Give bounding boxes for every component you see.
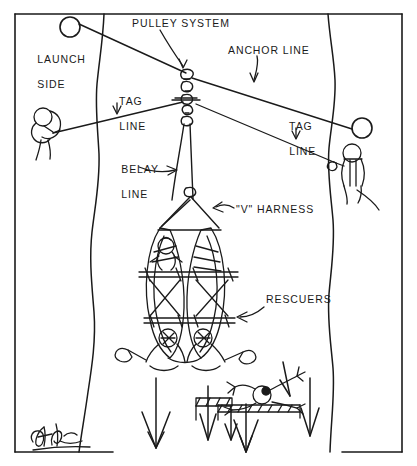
label-pulley-system: PULLEY SYSTEM bbox=[132, 17, 230, 29]
right-bank bbox=[328, 14, 335, 452]
label-belay-line-line2: LINE bbox=[121, 188, 148, 200]
right-anchor-circle bbox=[352, 118, 372, 138]
label-launch-side-line2: SIDE bbox=[37, 78, 65, 90]
left-anchor-circle bbox=[60, 17, 80, 37]
rescuer-left-lower-figure bbox=[115, 329, 185, 371]
label-belay-line-line1: BELAY bbox=[121, 163, 159, 175]
belay-carabiner bbox=[184, 187, 195, 196]
label-tag-line-left: TAG LINE bbox=[104, 82, 146, 145]
double-kayak-litter bbox=[139, 228, 238, 363]
label-launch-side-line1: LAUNCH bbox=[37, 53, 86, 65]
left-rope-tender-figure bbox=[32, 108, 61, 160]
label-belay-line: BELAY LINE bbox=[106, 150, 159, 213]
rescuer-left-figure bbox=[150, 238, 182, 271]
label-tag-line-right-line2: LINE bbox=[289, 145, 316, 157]
label-launch-side: LAUNCH SIDE bbox=[22, 40, 86, 103]
belay-line-rope bbox=[172, 124, 193, 200]
pulley-system-hardware bbox=[172, 69, 200, 126]
label-rescuers: RESCUERS bbox=[266, 293, 332, 305]
rescuer-right-lower-figure bbox=[187, 329, 256, 371]
label-tag-line-left-line2: LINE bbox=[119, 120, 146, 132]
right-rope-tender-figure bbox=[327, 144, 379, 210]
label-tag-line-right: TAG LINE bbox=[274, 107, 316, 170]
label-v-harness: "V" HARNESS bbox=[236, 203, 314, 215]
diagram-canvas: LAUNCH SIDE PULLEY SYSTEM ANCHOR LINE TA… bbox=[0, 0, 417, 466]
label-anchor-line: ANCHOR LINE bbox=[228, 44, 310, 56]
label-tag-line-left-line1: TAG bbox=[119, 95, 143, 107]
v-harness-rigging bbox=[158, 197, 221, 230]
label-tag-line-right-line1: TAG bbox=[289, 120, 313, 132]
